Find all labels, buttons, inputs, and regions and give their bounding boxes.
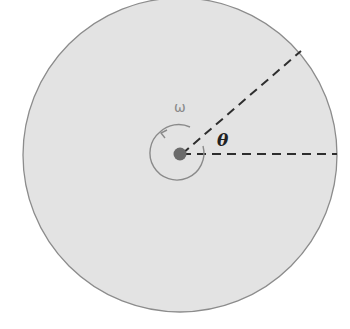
rotating-disk-diagram: ω θ [0, 0, 350, 329]
theta-label: θ [217, 130, 229, 150]
omega-label: ω [174, 99, 186, 115]
center-axis-dot [174, 148, 187, 161]
